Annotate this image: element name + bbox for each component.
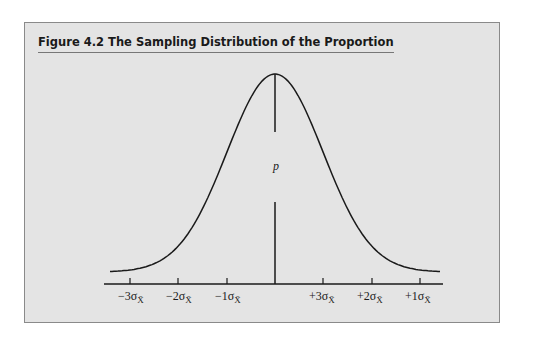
tick-label: +1σX̄ bbox=[405, 289, 431, 305]
tick-label: +2σX̄ bbox=[357, 289, 383, 305]
tick-label: −3σX̄ bbox=[118, 289, 144, 305]
normal-curve-diagram: p −3σX̄ −2σX̄ −1σX̄ +3σX̄ +2σX̄ +1σX̄ bbox=[0, 0, 544, 343]
tick-labels: −3σX̄ −2σX̄ −1σX̄ +3σX̄ +2σX̄ +1σX̄ bbox=[118, 289, 431, 305]
tick-label: +3σX̄ bbox=[309, 289, 335, 305]
tick-label: −2σX̄ bbox=[166, 289, 192, 305]
tick-label: −1σX̄ bbox=[215, 289, 241, 305]
center-label: p bbox=[272, 159, 279, 173]
